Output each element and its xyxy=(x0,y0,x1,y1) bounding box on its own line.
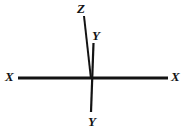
z-axis-label: Z xyxy=(77,2,85,15)
x-axis-label-left: X xyxy=(5,70,14,83)
y-axis-label-bottom: Y xyxy=(88,115,96,128)
y-axis-label-upper: Y xyxy=(92,29,100,42)
axis-diagram: X X Z Y Y xyxy=(0,0,189,137)
x-axis-label-right: X xyxy=(171,70,180,83)
